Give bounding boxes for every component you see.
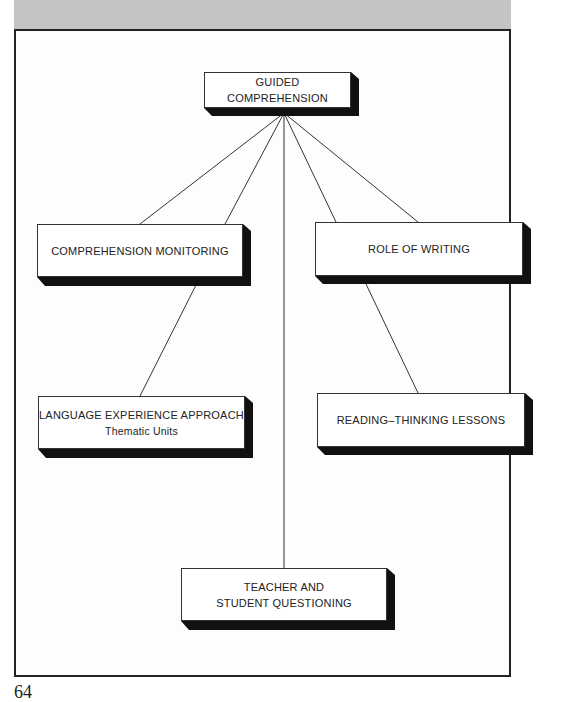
node-label-box: READING–THINKING LESSONS — [317, 393, 525, 447]
node-guided-comprehension: GUIDED COMPREHENSION — [204, 72, 351, 108]
node-label-box: TEACHER AND STUDENT QUESTIONING — [181, 568, 387, 621]
node-label-box: ROLE OF WRITING — [315, 222, 523, 276]
page-number: 64 — [14, 682, 32, 702]
node-subtitle: Thematic Units — [105, 423, 178, 439]
node-label: READING–THINKING LESSONS — [337, 412, 506, 428]
node-comprehension-monitoring: COMPREHENSION MONITORING — [37, 224, 243, 277]
node-language-experience-approach: LANGUAGE EXPERIENCE APPROACH Thematic Un… — [38, 396, 245, 449]
node-label-box: LANGUAGE EXPERIENCE APPROACH Thematic Un… — [38, 396, 245, 449]
node-label: ROLE OF WRITING — [368, 241, 470, 257]
node-label-line2: STUDENT QUESTIONING — [216, 595, 352, 611]
node-label-line1: TEACHER AND — [244, 579, 324, 595]
node-role-of-writing: ROLE OF WRITING — [315, 222, 523, 276]
node-label-box: GUIDED COMPREHENSION — [204, 72, 351, 108]
node-teacher-student-questioning: TEACHER AND STUDENT QUESTIONING — [181, 568, 387, 621]
node-label-box: COMPREHENSION MONITORING — [37, 224, 243, 277]
node-label: GUIDED COMPREHENSION — [205, 74, 350, 106]
node-label: LANGUAGE EXPERIENCE APPROACH — [39, 407, 244, 423]
node-label: COMPREHENSION MONITORING — [51, 243, 229, 259]
node-reading-thinking-lessons: READING–THINKING LESSONS — [317, 393, 525, 447]
